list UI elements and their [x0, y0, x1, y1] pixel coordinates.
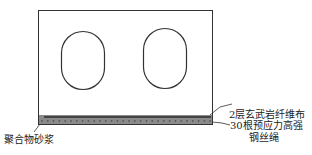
leader-wire — [212, 122, 230, 125]
label-steel-wire-2: 钢丝绳 — [249, 132, 279, 144]
label-steel-wire-1: 30根预应力高强 — [230, 120, 303, 132]
basalt-fiber-layer — [44, 116, 211, 118]
label-polymer-mortar: 聚合物砂浆 — [4, 134, 54, 146]
leader-mortar — [34, 124, 40, 132]
